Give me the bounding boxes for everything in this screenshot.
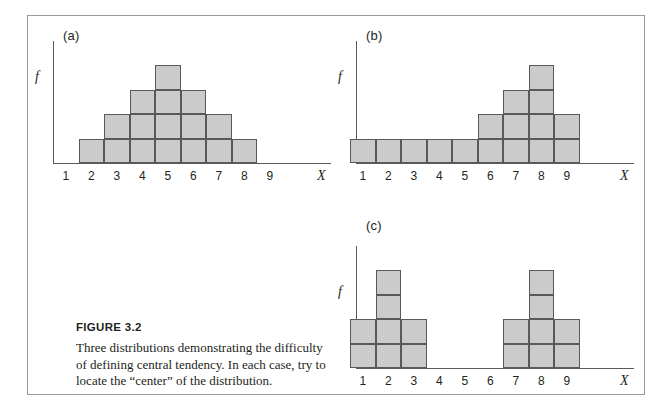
histogram-cell <box>529 139 555 164</box>
panel-b-chart: (b) f X 123456789 <box>331 16 646 196</box>
x-tick-label: 6 <box>478 169 502 183</box>
x-tick-label: 3 <box>105 169 129 183</box>
x-tick-label: 9 <box>258 169 282 183</box>
x-tick-label: 6 <box>181 169 205 183</box>
panel-b-x-axis-label: X <box>620 168 629 184</box>
x-tick-label: 2 <box>79 169 103 183</box>
figure-caption: FIGURE 3.2 Three distributions demonstra… <box>76 321 334 390</box>
histogram-cell <box>427 139 453 164</box>
histogram-cell <box>529 270 555 295</box>
x-tick-label: 5 <box>453 374 477 388</box>
panel-b-y-axis-label: f <box>338 69 342 85</box>
x-tick-label: 7 <box>504 169 528 183</box>
figure-frame: (a) f X 123456789 (b) f X 123456789 (c) … <box>27 15 645 395</box>
histogram-cell <box>181 114 207 139</box>
histogram-cell <box>554 139 580 164</box>
histogram-cell <box>350 344 376 369</box>
histogram-cell <box>350 139 376 164</box>
histogram-cell <box>503 90 529 115</box>
histogram-cell <box>376 270 402 295</box>
histogram-cell <box>155 65 181 90</box>
histogram-cell <box>554 344 580 369</box>
panel-c-x-axis-label: X <box>620 373 629 389</box>
histogram-cell <box>181 90 207 115</box>
panel-c-x-axis <box>356 368 634 369</box>
histogram-cell <box>155 114 181 139</box>
histogram-cell <box>104 139 130 164</box>
panel-b-x-axis <box>356 163 634 164</box>
x-tick-label: 8 <box>529 374 553 388</box>
histogram-cell <box>130 90 156 115</box>
histogram-cell <box>503 319 529 344</box>
x-tick-label: 9 <box>555 169 579 183</box>
histogram-cell <box>130 139 156 164</box>
x-tick-label: 1 <box>54 169 78 183</box>
panel-b-label: (b) <box>366 28 383 43</box>
histogram-cell <box>206 139 232 164</box>
panel-a-x-axis-label: X <box>317 168 326 184</box>
x-tick-label: 4 <box>427 374 451 388</box>
histogram-cell <box>478 114 504 139</box>
histogram-cell <box>529 90 555 115</box>
x-tick-label: 8 <box>529 169 553 183</box>
x-tick-label: 9 <box>555 374 579 388</box>
panel-a-x-axis <box>53 163 331 164</box>
x-tick-label: 3 <box>402 169 426 183</box>
x-tick-label: 5 <box>453 169 477 183</box>
x-tick-label: 7 <box>207 169 231 183</box>
x-tick-label: 3 <box>402 374 426 388</box>
histogram-cell <box>503 344 529 369</box>
x-tick-label: 1 <box>351 169 375 183</box>
histogram-cell <box>155 90 181 115</box>
histogram-cell <box>376 295 402 320</box>
panel-a-chart: (a) f X 123456789 <box>28 16 338 196</box>
histogram-cell <box>503 114 529 139</box>
histogram-cell <box>181 139 207 164</box>
figure-caption-title: FIGURE 3.2 <box>76 321 334 333</box>
figure-caption-body: Three distributions demonstrating the di… <box>76 340 334 390</box>
x-tick-label: 4 <box>427 169 451 183</box>
histogram-cell <box>529 114 555 139</box>
panel-a-y-axis-label: f <box>35 69 39 85</box>
histogram-cell <box>401 139 427 164</box>
histogram-cell <box>376 344 402 369</box>
x-tick-label: 1 <box>351 374 375 388</box>
histogram-cell <box>232 139 258 164</box>
histogram-cell <box>529 319 555 344</box>
histogram-cell <box>529 295 555 320</box>
histogram-cell <box>478 139 504 164</box>
panel-c-chart: (c) f X 123456789 <box>331 206 646 396</box>
histogram-cell <box>104 114 130 139</box>
x-tick-label: 7 <box>504 374 528 388</box>
histogram-cell <box>529 344 555 369</box>
x-tick-label: 5 <box>156 169 180 183</box>
histogram-cell <box>130 114 156 139</box>
histogram-cell <box>401 344 427 369</box>
histogram-cell <box>452 139 478 164</box>
x-tick-label: 6 <box>478 374 502 388</box>
histogram-cell <box>350 319 376 344</box>
panel-a-y-axis <box>53 41 54 164</box>
histogram-cell <box>79 139 105 164</box>
x-tick-label: 2 <box>376 169 400 183</box>
panel-c-label: (c) <box>366 218 382 233</box>
histogram-cell <box>503 139 529 164</box>
histogram-cell <box>376 319 402 344</box>
histogram-cell <box>155 139 181 164</box>
x-tick-label: 8 <box>232 169 256 183</box>
histogram-cell <box>554 114 580 139</box>
panel-c-y-axis-label: f <box>338 284 342 300</box>
histogram-cell <box>529 65 555 90</box>
histogram-cell <box>401 319 427 344</box>
x-tick-label: 4 <box>130 169 154 183</box>
histogram-cell <box>554 319 580 344</box>
histogram-cell <box>206 114 232 139</box>
panel-a-label: (a) <box>63 28 80 43</box>
x-tick-label: 2 <box>376 374 400 388</box>
histogram-cell <box>376 139 402 164</box>
